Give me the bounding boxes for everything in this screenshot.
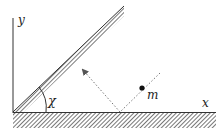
trajectory-reflected (83, 70, 120, 112)
ground-surface (13, 113, 216, 128)
diagram-canvas: y x χ m (0, 0, 221, 135)
inclined-plane (13, 6, 124, 122)
mass-point (139, 85, 144, 90)
angle-label: χ (47, 93, 57, 108)
mass-label: m (147, 88, 158, 102)
y-axis-label: y (17, 13, 25, 27)
incline-line (13, 6, 124, 112)
x-axis-label: x (202, 96, 209, 110)
